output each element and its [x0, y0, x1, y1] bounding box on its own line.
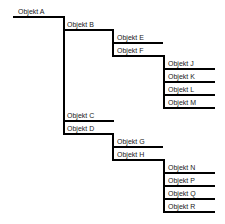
branch-line-d	[63, 133, 114, 135]
branch-line-k	[163, 81, 215, 83]
node-label-n: Objekt N	[168, 164, 195, 172]
branch-line-r	[163, 211, 215, 213]
branch-line-l	[163, 94, 215, 96]
branch-line-j	[163, 68, 215, 70]
node-label-k: Objekt K	[168, 73, 195, 81]
node-label-j: Objekt J	[168, 60, 194, 68]
branch-line-n	[163, 172, 215, 174]
node-label-h: Objekt H	[117, 151, 144, 159]
node-label-f: Objekt F	[117, 47, 143, 55]
branch-line-q	[163, 198, 215, 200]
branch-line-f	[112, 55, 164, 57]
node-label-l: Objekt L	[168, 86, 194, 94]
branch-line-e	[112, 42, 163, 44]
node-label-d: Objekt D	[67, 125, 94, 133]
node-label-q: Objekt Q	[168, 190, 196, 198]
branch-line-m	[163, 107, 215, 109]
node-label-r: Objekt R	[168, 203, 195, 211]
branch-line-b	[63, 29, 114, 31]
node-label-g: Objekt G	[117, 138, 145, 146]
branch-line-p	[163, 185, 215, 187]
branch-line-a	[13, 16, 65, 18]
node-label-c: Objekt C	[67, 112, 94, 120]
node-label-p: Objekt P	[168, 177, 195, 185]
node-label-b: Objekt B	[67, 21, 94, 29]
node-label-e: Objekt E	[117, 34, 144, 42]
branch-line-g	[112, 146, 163, 148]
node-label-m: Objekt M	[168, 99, 196, 107]
node-label-a: Objekt A	[18, 8, 44, 16]
connector-a	[63, 16, 65, 135]
branch-line-c	[63, 120, 114, 122]
branch-line-h	[112, 159, 164, 161]
